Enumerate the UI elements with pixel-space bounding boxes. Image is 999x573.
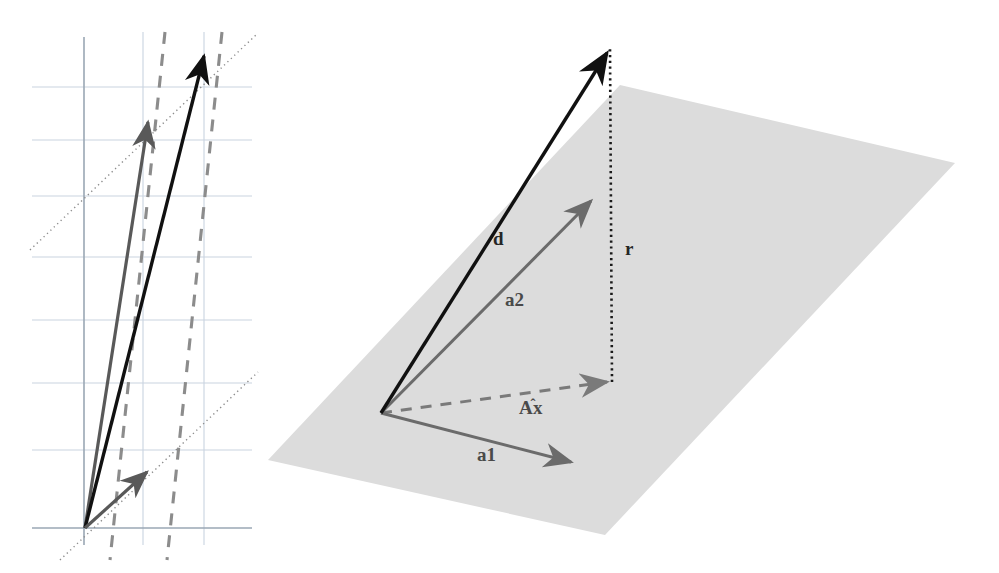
vector-ax-hat-var-label: x [533,397,543,418]
vector-ax-hat-base-label: A [519,397,533,418]
vector-a2-label: a2 [505,289,524,310]
vector-ax-hat-label: A x ̂ [519,397,543,418]
vector-d-label: d [493,228,504,249]
vector-a1-label: a1 [477,444,496,465]
subspace-plane [268,85,955,535]
residual-r-label: r [625,238,634,259]
figure-root: d a2 a1 A x ̂ r [0,0,999,573]
plane-projection-panel: d a2 a1 A x ̂ r [0,0,999,573]
